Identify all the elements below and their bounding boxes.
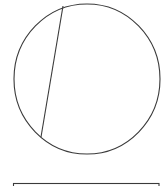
chord-line bbox=[41, 6, 63, 137]
circle-shape bbox=[14, 4, 160, 154]
rectangle-shape bbox=[14, 184, 160, 187]
diagram-canvas bbox=[0, 0, 163, 186]
